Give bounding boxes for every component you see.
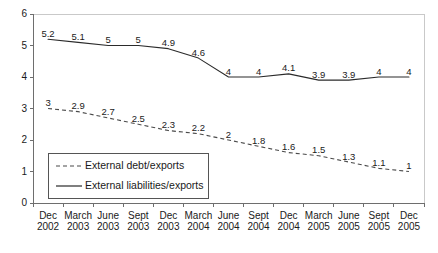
- y-tick-label: 4: [21, 71, 27, 82]
- data-label: 4: [376, 66, 381, 77]
- x-axis-label-year: 2003: [127, 221, 150, 232]
- x-axis-ticks: [33, 203, 424, 207]
- x-axis-label-year: 2004: [217, 221, 240, 232]
- data-label: 3.9: [342, 69, 355, 80]
- data-label: 2.7: [102, 106, 115, 117]
- data-label: 5.1: [72, 31, 85, 42]
- data-label: 2: [226, 129, 231, 140]
- data-label: 2.5: [132, 113, 145, 124]
- x-axis-label-month: Dec: [400, 210, 418, 221]
- x-axis-label-month: Sept: [128, 210, 149, 221]
- data-label: 1.5: [312, 144, 325, 155]
- data-label: 2.3: [162, 119, 175, 130]
- x-axis-label-month: Dec: [280, 210, 298, 221]
- x-axis-label-year: 2003: [67, 221, 90, 232]
- x-axis-label-month: Sept: [369, 210, 390, 221]
- y-axis-ticks: 0123456: [21, 8, 33, 208]
- line-chart: 0123456 32.92.72.52.32.221.81.61.51.31.1…: [0, 0, 438, 253]
- data-label: 4: [406, 66, 411, 77]
- data-label: 1.1: [372, 157, 385, 168]
- x-axis-label-month: Dec: [159, 210, 177, 221]
- data-label: 1.8: [252, 135, 265, 146]
- data-label: 3.9: [312, 69, 325, 80]
- chart-legend: External debt/exportsExternal liabilitie…: [48, 153, 208, 198]
- data-label: 4.6: [192, 47, 205, 58]
- x-axis-label-year: 2005: [338, 221, 361, 232]
- y-tick-label: 6: [21, 8, 27, 19]
- legend-label: External debt/exports: [85, 159, 184, 171]
- x-axis-label-year: 2005: [398, 221, 421, 232]
- chart-container: 0123456 32.92.72.52.32.221.81.61.51.31.1…: [0, 0, 438, 253]
- y-tick-label: 5: [21, 40, 27, 51]
- x-axis-label-month: March: [64, 210, 92, 221]
- data-label: 1: [406, 160, 411, 171]
- x-axis-label-month: June: [218, 210, 240, 221]
- data-label: 5: [106, 34, 111, 45]
- y-tick-label: 2: [21, 134, 27, 145]
- x-axis-label-year: 2004: [247, 221, 270, 232]
- data-label: 5.2: [41, 28, 54, 39]
- data-label: 4: [256, 66, 261, 77]
- x-axis-labels: Dec2002March2003June2003Sept2003Dec2003M…: [37, 210, 421, 232]
- data-label: 2.2: [192, 122, 205, 133]
- x-axis-label-year: 2005: [368, 221, 391, 232]
- x-axis-label-month: March: [185, 210, 213, 221]
- data-label: 4: [226, 66, 231, 77]
- y-tick-label: 0: [21, 197, 27, 208]
- data-label: 4.9: [162, 37, 175, 48]
- y-tick-label: 3: [21, 103, 27, 114]
- data-label: 1.3: [342, 151, 355, 162]
- x-axis-label-year: 2004: [187, 221, 210, 232]
- x-axis-label-month: June: [97, 210, 119, 221]
- data-labels-layer: 32.92.72.52.32.221.81.61.51.31.115.25.15…: [41, 28, 411, 171]
- x-axis-label-year: 2004: [278, 221, 301, 232]
- data-label: 5: [136, 34, 141, 45]
- x-axis-label-year: 2005: [308, 221, 331, 232]
- x-axis-label-month: Dec: [39, 210, 57, 221]
- x-axis-label-year: 2003: [97, 221, 120, 232]
- x-axis-label-month: March: [305, 210, 333, 221]
- y-tick-label: 1: [21, 166, 27, 177]
- data-label: 1.6: [282, 141, 295, 152]
- data-label: 4.1: [282, 62, 295, 73]
- data-label: 3: [45, 97, 50, 108]
- x-axis-label-year: 2003: [157, 221, 180, 232]
- x-axis-label-month: June: [338, 210, 360, 221]
- x-axis-label-year: 2002: [37, 221, 60, 232]
- data-label: 2.9: [72, 100, 85, 111]
- x-axis-label-month: Sept: [248, 210, 269, 221]
- legend-label: External liabilities/exports: [85, 179, 203, 191]
